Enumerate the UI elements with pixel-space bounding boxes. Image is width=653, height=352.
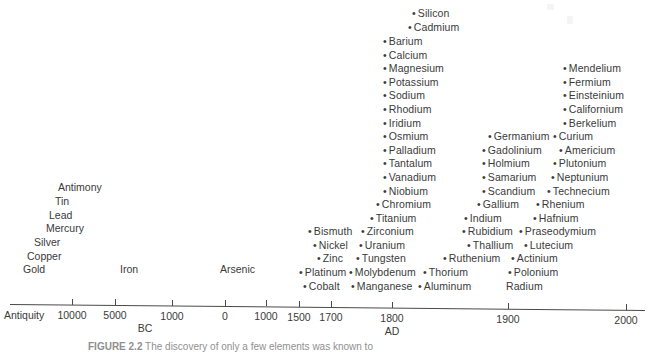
element-data-point: •Scandium — [482, 186, 535, 197]
element-marker-dot: • — [553, 158, 557, 169]
element-marker-dot: • — [536, 199, 540, 210]
element-data-point: •Potassium — [383, 77, 439, 88]
scan-artifact — [547, 4, 554, 10]
element-name-label: Calcium — [389, 49, 428, 61]
element-name-label: Palladium — [389, 144, 436, 156]
element-marker-dot: • — [383, 63, 387, 74]
element-data-point: •Indium — [464, 213, 502, 224]
element-name-label: Polonium — [514, 266, 559, 278]
antiquity-element-label: Mercury — [46, 223, 84, 234]
figure-caption-number: FIGURE 2.2 — [88, 341, 142, 352]
element-data-point: •Iridium — [383, 118, 421, 129]
element-data-point: •Molybdenum — [349, 267, 416, 278]
antiquity-element-label: Arsenic — [220, 264, 255, 275]
element-marker-dot: • — [361, 226, 365, 237]
element-marker-dot: • — [462, 226, 466, 237]
element-marker-dot: • — [418, 281, 422, 292]
element-name-label: Rubidium — [468, 225, 513, 237]
element-marker-dot: • — [477, 199, 481, 210]
element-marker-dot: • — [376, 199, 380, 210]
axis-era-label: BC — [138, 323, 153, 334]
element-data-point: •Neptunium — [551, 172, 608, 183]
element-marker-dot: • — [519, 226, 523, 237]
element-name-label: Osmium — [389, 130, 429, 142]
element-marker-dot: • — [370, 213, 374, 224]
element-data-point: •Hafnium — [533, 213, 579, 224]
element-data-point: •Thallium — [467, 240, 513, 251]
axis-tick-label: 2000 — [614, 315, 637, 326]
element-data-point: •Californium — [563, 104, 623, 115]
element-name-label: Bismuth — [314, 225, 353, 237]
antiquity-element-label: Lead — [49, 210, 72, 221]
element-data-point: •Niobium — [383, 186, 428, 197]
element-data-point: •Rubidium — [462, 226, 513, 237]
element-data-point: •Osmium — [383, 131, 428, 142]
element-data-point: •Sodium — [383, 90, 425, 101]
element-data-point: •Magnesium — [383, 63, 444, 74]
axis-tick-mark — [72, 299, 73, 305]
axis-tick-mark — [266, 300, 267, 306]
axis-tick-label: 1000 — [254, 311, 277, 322]
element-marker-dot: • — [351, 281, 355, 292]
element-data-point: •Zirconium — [361, 226, 414, 237]
element-data-point: •Ruthenium — [443, 253, 500, 264]
axis-tick-mark — [508, 303, 509, 309]
element-data-point: •Cadmium — [408, 22, 459, 33]
element-marker-dot: • — [383, 145, 387, 156]
antiquity-element-label: Tin — [55, 196, 69, 207]
element-marker-dot: • — [383, 186, 387, 197]
axis-tick-label: 0 — [222, 311, 228, 322]
element-marker-dot: • — [349, 267, 353, 278]
element-marker-dot: • — [482, 186, 486, 197]
element-marker-dot: • — [308, 226, 312, 237]
element-marker-dot: • — [383, 77, 387, 88]
element-data-point: •Platinum — [299, 267, 346, 278]
element-name-label: Technecium — [553, 185, 610, 197]
element-marker-dot: • — [488, 131, 492, 142]
element-name-label: Iridium — [389, 117, 421, 129]
element-data-point: •Samarium — [482, 172, 536, 183]
element-name-label: Indium — [470, 212, 502, 224]
element-name-label: Fermium — [569, 76, 611, 88]
element-name-label: Sodium — [389, 89, 425, 101]
antiquity-element-label: Silver — [34, 237, 60, 248]
axis-tick-mark — [225, 300, 226, 306]
element-marker-dot: • — [383, 118, 387, 129]
element-name-label: Berkelium — [569, 117, 617, 129]
axis-tick-mark — [626, 304, 627, 310]
element-marker-dot: • — [563, 90, 567, 101]
element-marker-dot: • — [563, 77, 567, 88]
element-marker-dot: • — [313, 240, 317, 251]
element-data-point: •Bismuth — [308, 226, 352, 237]
antiquity-element-label: Gold — [23, 264, 45, 275]
element-name-label: Molybdenum — [355, 266, 416, 278]
element-name-label: Potassium — [389, 76, 439, 88]
element-name-label: Hafnium — [539, 212, 579, 224]
element-data-point: •Vanadium — [383, 172, 436, 183]
element-data-point: •Cobalt — [303, 281, 340, 292]
element-name-label: Uranium — [365, 239, 405, 251]
antiquity-element-label: Iron — [120, 264, 138, 275]
element-name-label: Manganese — [357, 280, 413, 292]
element-name-label: Nickel — [319, 239, 348, 251]
element-name-label: Germanium — [494, 130, 550, 142]
element-data-point: •Holmium — [482, 158, 530, 169]
element-data-point: •Barium — [383, 36, 423, 47]
element-marker-dot: • — [383, 50, 387, 61]
element-name-label: Cadmium — [414, 21, 460, 33]
element-name-label: Aluminum — [424, 280, 471, 292]
element-data-point: •Gadolinium — [482, 145, 542, 156]
element-data-point: •Curium — [553, 131, 593, 142]
element-name-label: Chromium — [382, 198, 431, 210]
element-name-label: Mendelium — [569, 62, 621, 74]
element-name-label: Tantalum — [389, 157, 432, 169]
element-name-label: Plutonium — [559, 157, 607, 169]
element-marker-dot: • — [303, 281, 307, 292]
element-name-label: Scandium — [488, 185, 536, 197]
element-marker-dot: • — [383, 104, 387, 115]
element-name-label: Actinium — [517, 252, 558, 264]
element-data-point: •Actinium — [511, 253, 558, 264]
element-marker-dot: • — [482, 158, 486, 169]
element-marker-dot: • — [547, 186, 551, 197]
element-data-point: •Tantalum — [383, 158, 432, 169]
